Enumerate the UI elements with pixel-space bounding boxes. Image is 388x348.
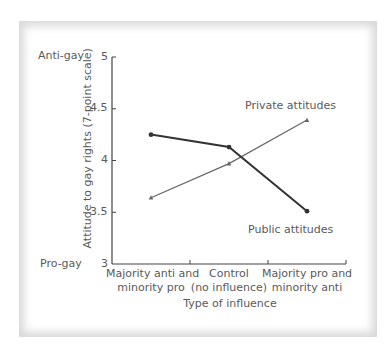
y-axis-label: Attitude to gay rights (7-point scale)	[81, 59, 94, 249]
public-attitudes-markers	[149, 132, 310, 213]
x-category-2: Control (no influence)	[184, 267, 274, 295]
public-attitudes-marker	[149, 132, 154, 137]
y-tick-5: 5	[101, 50, 108, 63]
x-category-2-line2: (no influence)	[184, 281, 274, 295]
private-attitudes-line	[151, 120, 307, 198]
x-category-1-line2: minority pro	[106, 281, 196, 295]
x-axis-label: Type of influence	[170, 297, 290, 311]
private-attitudes-marker	[305, 118, 310, 122]
public-attitudes-marker	[305, 209, 310, 214]
x-category-3-line2: minority anti	[262, 281, 352, 295]
x-category-1: Majority anti and minority pro	[106, 267, 196, 295]
anti-gay-label: Anti-gay	[38, 49, 84, 62]
private-attitudes-annotation: Private attitudes	[245, 99, 336, 112]
x-category-3: Majority pro and minority anti	[262, 267, 352, 295]
x-category-1-line1: Majority anti and	[106, 267, 196, 281]
private-attitudes-markers	[149, 118, 310, 200]
y-tick-4: 4	[101, 153, 108, 166]
x-category-2-line1: Control	[184, 267, 274, 281]
public-attitudes-marker	[227, 145, 232, 150]
x-category-3-line1: Majority pro and	[262, 267, 352, 281]
pro-gay-label: Pro-gay	[40, 257, 82, 270]
public-attitudes-annotation: Public attitudes	[248, 223, 333, 236]
